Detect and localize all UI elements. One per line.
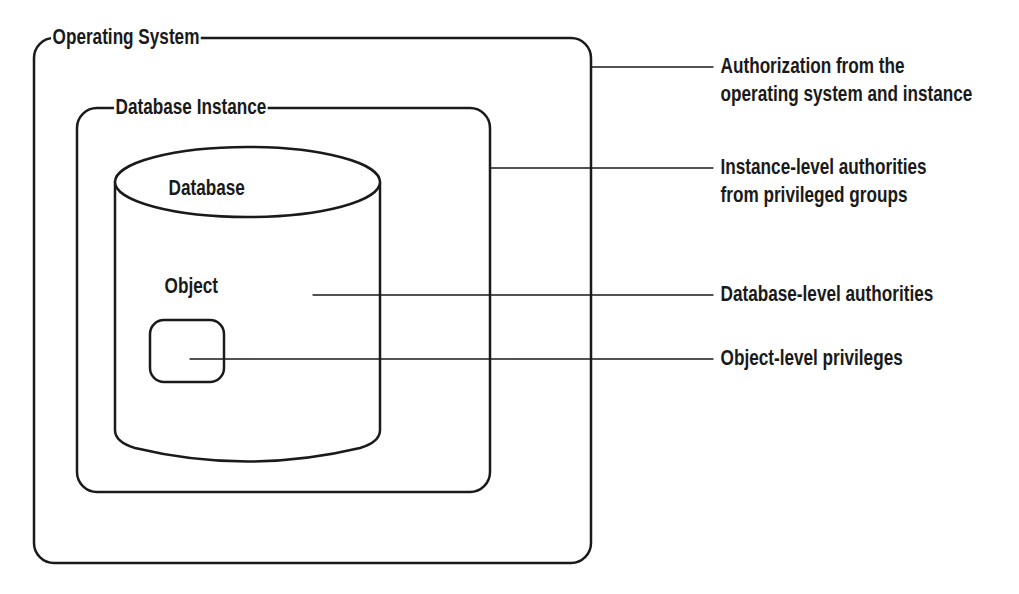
callout-database-level-authorities: Database-level authorities [719,280,935,308]
object-label: Object [163,275,220,297]
callout-line: operating system and instance [721,80,973,108]
callout-object-level-privileges: Object-level privileges [719,344,904,372]
callout-os-instance-authorization: Authorization from the operating system … [719,52,974,108]
callout-line: Object-level privileges [721,344,903,372]
callout-line: Database-level authorities [721,280,934,308]
database-label: Database [167,177,246,199]
database-cylinder [115,147,380,462]
object-box [150,320,224,382]
security-layers-diagram: Operating System Database Instance Datab… [0,0,1019,594]
operating-system-label: Operating System [51,26,201,48]
callout-line: Authorization from the [721,52,973,80]
callout-line: from privileged groups [721,181,927,209]
callout-instance-level-authorities: Instance-level authorities from privileg… [719,153,928,209]
database-instance-label: Database Instance [114,96,268,118]
callout-line: Instance-level authorities [721,153,927,181]
